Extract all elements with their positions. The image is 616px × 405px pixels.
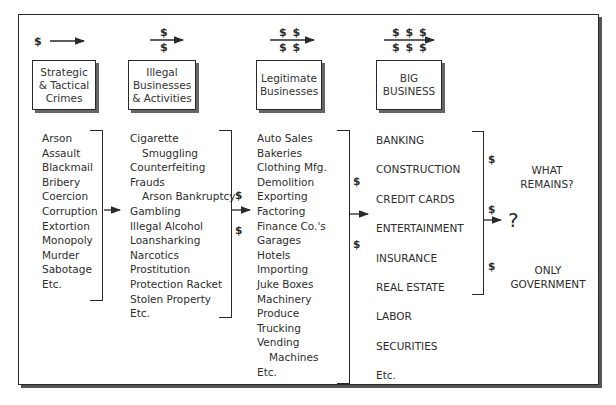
list-item: Bakeries: [257, 146, 327, 161]
bracket-big-business: [472, 131, 484, 295]
dollar-sign: $: [235, 224, 242, 236]
list-item: Etc.: [257, 365, 327, 380]
list-item: Produce: [257, 306, 327, 321]
outcome-what-remains: WHATREMAINS?: [512, 163, 582, 191]
legitimate-businesses-list: Auto SalesBakeriesClothing Mfg.Demolitio…: [257, 131, 327, 379]
stage-box-strategic-crimes: Strategic& TacticalCrimes: [32, 60, 96, 110]
list-item: INSURANCE: [376, 252, 464, 281]
bracket-legitimate: [337, 130, 350, 384]
stage-box-big-business: BIGBUSINESS: [376, 60, 442, 110]
list-item: SECURITIES: [376, 340, 464, 369]
list-item: Demolition: [257, 175, 327, 190]
list-item: CONSTRUCTION: [376, 163, 464, 192]
list-item: Trucking: [257, 321, 327, 336]
dollar-sign: $: [353, 238, 360, 250]
big-business-list: BANKING CONSTRUCTION CREDIT CARDS ENTERT…: [376, 134, 464, 399]
bracket-illegal: [219, 130, 232, 318]
list-item: Hotels: [257, 248, 327, 263]
list-item: CREDIT CARDS: [376, 193, 464, 222]
list-item: LABOR: [376, 310, 464, 339]
list-item: Auto Sales: [257, 131, 327, 146]
bracket-crimes: [90, 130, 103, 301]
list-item: Clothing Mfg.: [257, 160, 327, 175]
stage-box-illegal-businesses: IllegalBusinesses& Activities: [128, 60, 196, 110]
outcome-only-government: ONLYGOVERNMENT: [500, 263, 596, 291]
dollar-sign: $: [235, 189, 242, 201]
list-item: Factoring: [257, 204, 327, 219]
list-item: Juke Boxes: [257, 277, 327, 292]
question-mark: ?: [508, 208, 519, 232]
dollar-sign: $: [488, 260, 495, 272]
dollar-sign: $: [488, 153, 495, 165]
list-item: Finance Co.'s: [257, 219, 327, 234]
list-item: Exporting: [257, 189, 327, 204]
list-item: Etc.: [376, 369, 464, 398]
list-item: Machines: [257, 350, 327, 365]
list-item: ENTERTAINMENT: [376, 222, 464, 251]
list-item: REAL ESTATE: [376, 281, 464, 310]
list-item: Vending: [257, 335, 327, 350]
list-item: BANKING: [376, 134, 464, 163]
list-item: Machinery: [257, 292, 327, 307]
dollar-sign: $: [353, 175, 360, 187]
list-item: Importing: [257, 262, 327, 277]
dollar-sign: $: [488, 203, 495, 215]
list-item: Garages: [257, 233, 327, 248]
stage-box-legitimate-businesses: LegitimateBusinesses: [256, 60, 322, 110]
